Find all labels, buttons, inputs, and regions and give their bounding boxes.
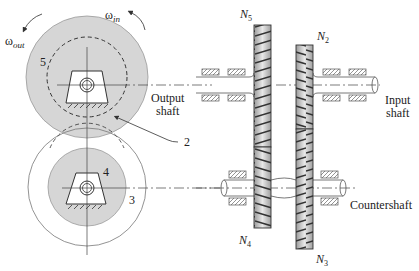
diagram-graphics — [0, 0, 419, 271]
countershaft-label: Countershaft — [350, 199, 412, 212]
input-shaft — [276, 69, 380, 101]
compound-gear-train-diagram: ωout ωin 5 2 4 3 Output shaft Input shaf… — [0, 0, 419, 271]
n5-label: N5 — [240, 8, 252, 25]
omega-in-arrow-icon — [130, 12, 145, 30]
n2-label: N2 — [317, 30, 329, 47]
omega-out-label: ωout — [5, 35, 24, 52]
gear-n4-side — [254, 147, 271, 228]
gear-3-label: 3 — [129, 194, 135, 207]
gear-2-label: 2 — [184, 136, 190, 149]
countershaft — [196, 171, 355, 205]
n3-label: N3 — [316, 253, 328, 270]
input-shaft-label: Input shaft — [385, 94, 410, 120]
gear-5-label: 5 — [40, 56, 46, 69]
n4-label: N4 — [239, 234, 251, 251]
omega-out-arrow-icon — [24, 14, 42, 30]
input-shaft-label-line2: shaft — [385, 107, 410, 120]
output-shaft-label: Output shaft — [151, 92, 184, 118]
gear-n3-side — [296, 129, 313, 249]
gear-n5-side — [254, 25, 271, 147]
gear-2-leader-line — [116, 117, 178, 142]
gear-4-label: 4 — [103, 166, 109, 179]
output-shaft-label-line2: shaft — [151, 105, 184, 118]
gear-n2-side — [296, 45, 313, 129]
output-shaft — [196, 69, 254, 101]
omega-in-label: ωin — [105, 9, 120, 26]
